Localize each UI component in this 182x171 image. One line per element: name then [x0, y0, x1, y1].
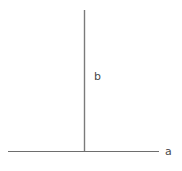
vertical-line-label-b: b [94, 71, 101, 82]
diagram-canvas [0, 0, 182, 171]
horizontal-line-label-a: a [165, 146, 172, 157]
line-diagram-figure: b a [0, 0, 182, 171]
